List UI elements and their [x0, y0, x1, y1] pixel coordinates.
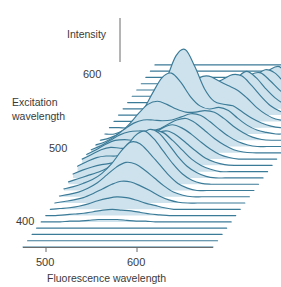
- fluorescence-waterfall-chart: Intensity Excitation wavelength 600 500 …: [0, 0, 281, 287]
- intensity-axis-label: Intensity: [67, 28, 107, 40]
- excitation-tick-label-500: 500: [49, 142, 67, 154]
- fluorescence-tick-label-500: 500: [36, 256, 54, 268]
- excitation-axis-label-line2: wavelength: [11, 110, 65, 122]
- excitation-tick-label-400: 400: [16, 215, 34, 227]
- excitation-tick-label-600: 600: [83, 68, 101, 80]
- fluorescence-tick-label-600: 600: [127, 256, 145, 268]
- fluorescence-axis-label: Fluorescence wavelength: [47, 272, 166, 284]
- excitation-axis-label-line1: Excitation: [12, 96, 58, 108]
